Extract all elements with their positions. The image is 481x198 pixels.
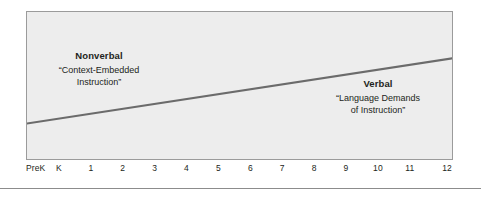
annotation-verbal-subtitle-line1: “Language Demands [312,93,444,105]
x-axis-tick-label: 9 [344,163,349,173]
x-axis-tick-label: 11 [405,163,414,173]
annotation-nonverbal: Nonverbal “Context-Embedded Instruction” [38,50,160,88]
bottom-rule-divider [0,188,481,189]
x-axis-tick-label: 4 [184,163,189,173]
x-axis-tick-label: 12 [442,163,452,173]
annotation-nonverbal-heading: Nonverbal [38,50,160,62]
annotation-verbal: Verbal “Language Demands of Instruction” [312,78,444,116]
x-axis-tick-label: 5 [216,163,221,173]
figure-container: Nonverbal “Context-Embedded Instruction”… [0,0,481,198]
x-axis-tick-label: PreK [26,163,45,173]
x-axis: PreKK123456789101112 [26,163,453,177]
annotation-nonverbal-subtitle-line1: “Context-Embedded [38,65,160,77]
x-axis-tick-label: K [56,163,62,173]
x-axis-tick-label: 3 [152,163,157,173]
x-axis-tick-label: 10 [373,163,383,173]
annotation-nonverbal-subtitle-line2: Instruction” [38,77,160,89]
annotation-verbal-subtitle-line2: of Instruction” [312,105,444,117]
x-axis-tick-label: 1 [88,163,93,173]
x-axis-tick-label: 6 [248,163,253,173]
x-axis-tick-label: 8 [312,163,317,173]
x-axis-tick-label: 2 [120,163,125,173]
x-axis-tick-label: 7 [280,163,285,173]
annotation-verbal-heading: Verbal [312,78,444,90]
